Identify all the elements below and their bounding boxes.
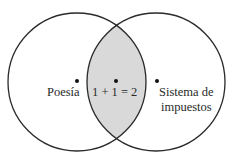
label-sistema-line1: Sistema de bbox=[159, 85, 214, 99]
label-sistema-line2: impuestos bbox=[161, 100, 212, 114]
label-poesia: Poesía bbox=[47, 85, 80, 99]
label-intersection: 1 + 1 = 2 bbox=[92, 85, 137, 99]
right-center-dot bbox=[155, 79, 159, 83]
venn-diagram: Poesía 1 + 1 = 2 Sistema de impuestos bbox=[0, 0, 235, 162]
intersection-dot bbox=[114, 79, 118, 83]
venn-svg: Poesía 1 + 1 = 2 Sistema de impuestos bbox=[0, 0, 235, 162]
left-center-dot bbox=[75, 79, 79, 83]
